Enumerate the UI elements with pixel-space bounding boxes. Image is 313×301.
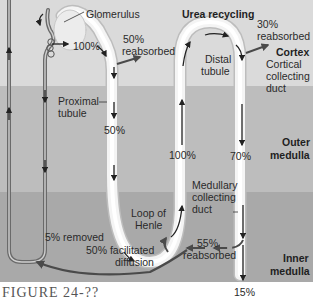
pct-15-label: 15% bbox=[234, 286, 255, 298]
pct-55-label: 55% bbox=[197, 237, 218, 249]
cortex-label: Cortex bbox=[276, 46, 309, 58]
loop-henle-label-line1: Loop of bbox=[131, 207, 166, 219]
proximal-label-line1: Proximal bbox=[58, 95, 99, 107]
distal-label-line2: tubule bbox=[201, 65, 230, 77]
diagram-title: Urea recycling bbox=[182, 8, 254, 20]
proximal-label-line2: tubule bbox=[58, 107, 87, 119]
glomerulus-label: Glomerulus bbox=[86, 8, 140, 20]
removed-label: 5% removed bbox=[45, 231, 104, 243]
cortical-label-line2: collecting bbox=[266, 70, 310, 82]
pct-70-label: 70% bbox=[230, 150, 251, 162]
medullary-label-line3: duct bbox=[192, 203, 212, 215]
inner-medulla-label-line1: Inner bbox=[283, 252, 309, 264]
facilitated-label-line2: diffusion bbox=[115, 256, 154, 268]
reabsorbed-label-distal: reabsorbed bbox=[257, 30, 310, 42]
outer-medulla-label-line2: medulla bbox=[270, 149, 310, 161]
distal-label-line1: Distal bbox=[205, 53, 231, 65]
pct-100-loop-label: 100% bbox=[169, 149, 196, 161]
pct-50-reabsorbed: 50% bbox=[123, 33, 144, 45]
loop-henle-label-line2: Henle bbox=[135, 219, 162, 231]
facilitated-label-line1: 50% facilitated bbox=[86, 244, 154, 256]
urea-recycling-diagram: Glomerulus 100% 50% reabsorbed Proximal … bbox=[0, 0, 313, 282]
reabsorbed-label-proximal: reabsorbed bbox=[122, 45, 175, 57]
outer-medulla-label-line1: Outer bbox=[282, 136, 310, 148]
inner-medulla-label-line2: medulla bbox=[270, 265, 310, 277]
figure-caption: FIGURE 24-?? bbox=[2, 285, 99, 301]
reabsorbed-label-medullary: reabsorbed bbox=[183, 249, 236, 261]
cortical-label-line3: duct bbox=[266, 82, 286, 94]
medullary-label-line1: Medullary bbox=[192, 179, 238, 191]
pct-30-label: 30% bbox=[257, 18, 278, 30]
vasa-recta bbox=[9, 0, 54, 262]
pct-50-label: 50% bbox=[104, 124, 125, 136]
cortical-label-line1: Cortical bbox=[266, 58, 302, 70]
medullary-label-line2: collecting bbox=[192, 191, 236, 203]
pct-100-glomerulus: 100% bbox=[73, 40, 100, 52]
